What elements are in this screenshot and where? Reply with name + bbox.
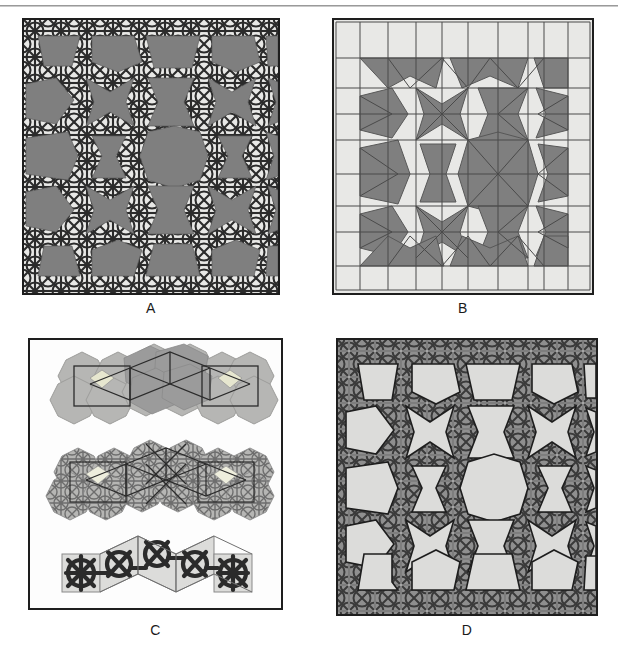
panel-a-artwork — [22, 18, 280, 295]
top-rule-divider — [0, 5, 618, 7]
panel-b-artwork — [332, 18, 594, 295]
panel-d-label: D — [336, 622, 598, 638]
panel-d — [336, 338, 598, 616]
panel-c-label: C — [28, 622, 283, 638]
panel-d-artwork — [336, 338, 598, 616]
panel-a-label: A — [22, 300, 280, 316]
panel-b-label: B — [332, 300, 594, 316]
panel-c-artwork — [28, 338, 283, 610]
panel-a — [22, 18, 280, 295]
panel-c — [28, 338, 283, 610]
figure-root: A — [0, 0, 618, 659]
panel-b — [332, 18, 594, 295]
